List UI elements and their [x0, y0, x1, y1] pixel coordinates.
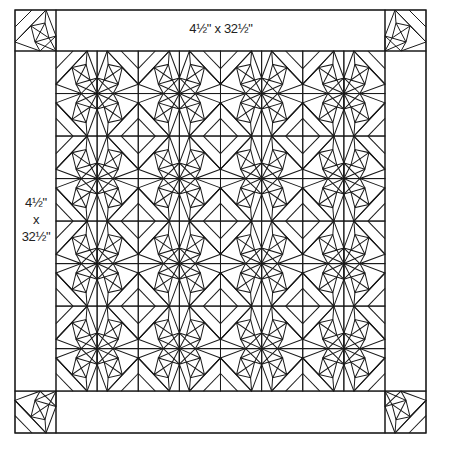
side-label-line-2: x — [15, 211, 57, 228]
side-label-line-1: 4½" — [15, 194, 57, 211]
quilt-diagram — [0, 0, 449, 451]
top-border-dimension-label: 4½" x 32½" — [57, 20, 385, 37]
side-label-line-3: 32½" — [15, 228, 57, 245]
side-border-dimension-label: 4½" x 32½" — [15, 194, 57, 245]
